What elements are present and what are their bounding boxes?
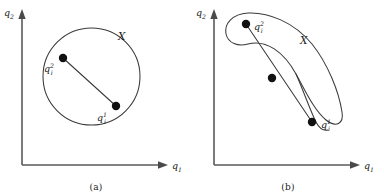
chord-segment [63, 58, 116, 106]
y-axis-label-sub: 2 [201, 13, 206, 20]
x-axis-label: q1 [364, 160, 374, 173]
y-axis-label-sub: 2 [9, 13, 14, 20]
nonconvex-set-region [226, 13, 343, 124]
x-axis-label-sub: 1 [178, 166, 182, 173]
point-label-q-i-2-sup: 2 [259, 20, 264, 27]
y-axis-arrowhead [210, 9, 217, 19]
point-label-q-i-2-sup: 2 [49, 62, 54, 69]
point-q-i-1 [112, 102, 120, 110]
point-label-q-i-1: q1i [97, 111, 107, 125]
panel-b-diagram: q2 q1 X q2i q1i [192, 0, 384, 194]
set-label-x: X [117, 30, 126, 42]
point-label-q-i-2-sub: i [51, 69, 53, 76]
point-label-q-i-1: q1i [321, 118, 331, 132]
point-label-q-i-2: q2i [254, 20, 264, 34]
y-axis-arrowhead [18, 9, 25, 19]
point-q-i-2 [59, 54, 67, 62]
panel-b-caption: (b) [192, 182, 384, 192]
x-axis-label: q1 [172, 160, 182, 173]
point-label-q-i-1-sup: 1 [327, 118, 331, 125]
panel-a: q2 q1 X q2i q1i (a) [0, 0, 192, 194]
set-label-x: X [299, 34, 308, 46]
figure-root: q2 q1 X q2i q1i (a) q2 [0, 0, 384, 194]
x-axis-label-sub: 1 [370, 166, 374, 173]
panel-a-diagram: q2 q1 X q2i q1i [0, 0, 192, 194]
panel-b: q2 q1 X q2i q1i (b) [192, 0, 384, 194]
point-label-q-i-1-sub: i [104, 118, 106, 125]
point-label-q-i-2-sub: i [261, 27, 263, 34]
x-axis-arrowhead [158, 161, 168, 168]
y-axis-label: q2 [196, 7, 206, 20]
point-q-i-1 [308, 118, 316, 126]
y-axis-label: q2 [4, 7, 14, 20]
point-label-q-i-1-sub: i [328, 125, 330, 132]
point-label-q-i-1-sup: 1 [103, 111, 107, 118]
point-midpoint [268, 74, 276, 82]
point-q-i-2 [242, 20, 250, 28]
panel-a-caption: (a) [0, 182, 192, 192]
convex-set-region [43, 28, 140, 125]
x-axis-arrowhead [350, 161, 360, 168]
point-label-q-i-2: q2i [44, 62, 54, 76]
